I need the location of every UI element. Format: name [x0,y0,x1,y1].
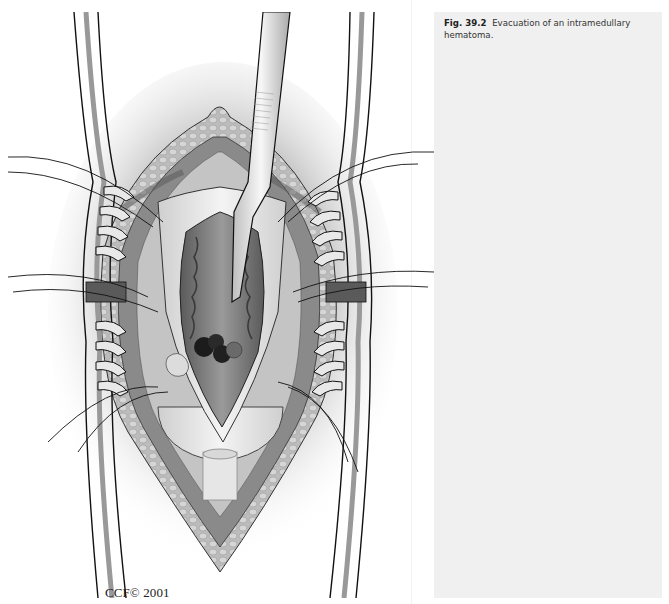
document-page: CCF© 2001 Fig. 39.2 Evacuation of an int… [0,0,669,604]
surgical-illustration [8,12,434,598]
caption-panel: Fig. 39.2 Evacuation of an intramedullar… [434,12,662,598]
figure-label: Fig. 39.2 [444,18,486,28]
page-crease [411,0,412,604]
figure-caption: Fig. 39.2 Evacuation of an intramedullar… [444,18,658,41]
figure-illustration-frame: CCF© 2001 [8,12,434,598]
illustration-credit: CCF© 2001 [105,585,170,598]
